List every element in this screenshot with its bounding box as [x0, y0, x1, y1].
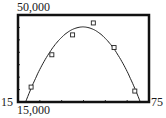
plot-frame	[18, 15, 149, 102]
data-point	[71, 33, 75, 37]
data-point	[133, 89, 137, 93]
data-points	[29, 21, 137, 93]
graph-window	[0, 0, 166, 118]
data-point	[29, 85, 33, 89]
data-point	[91, 21, 95, 25]
regression-curve	[26, 27, 141, 102]
axis-ticks	[18, 27, 127, 102]
data-point	[112, 46, 116, 50]
data-point	[50, 53, 54, 57]
